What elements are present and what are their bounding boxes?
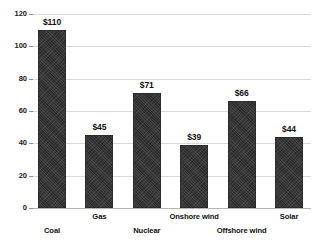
y-axis-tick-label-text: 120: [14, 9, 27, 18]
bar-chart: 020406080100120 $110$45$71$39$66$44 Coal…: [0, 0, 321, 247]
y-axis-tick-label: 60: [0, 106, 27, 116]
gridline: [33, 111, 311, 112]
gridline: [33, 176, 311, 177]
x-axis-category-label: Offshore wind: [202, 226, 282, 235]
bar: [133, 93, 161, 208]
bar: [275, 137, 303, 208]
x-axis-category-label: Nuclear: [107, 226, 187, 235]
bar-value-label: $39: [169, 132, 219, 142]
bar-value-label: $66: [217, 88, 267, 98]
y-axis-tick-label: 20: [0, 171, 27, 181]
x-axis-category-label: Solar: [249, 212, 321, 221]
x-axis-category-label: Onshore wind: [154, 212, 234, 221]
bar: [180, 145, 208, 208]
y-axis-tick-label: 100: [0, 41, 27, 51]
y-axis-tick-label: 40: [0, 138, 27, 148]
gridline: [33, 208, 311, 209]
y-axis-tick-label-text: 60: [19, 106, 27, 115]
y-axis-tick-label: 0: [0, 203, 27, 213]
y-axis-tick-label-text: 20: [19, 171, 27, 180]
y-axis-tick-label-text: 0: [23, 203, 27, 212]
x-axis-category-label: Gas: [59, 212, 139, 221]
y-axis-tick-label: 80: [0, 74, 27, 84]
bar-value-label: $44: [264, 124, 314, 134]
gridline: [33, 79, 311, 80]
y-axis-tick-label-text: 40: [19, 138, 27, 147]
bar: [38, 30, 66, 208]
y-axis-tick-label-text: 100: [14, 41, 27, 50]
y-axis-tick-label-text: 80: [19, 74, 27, 83]
gridline: [33, 14, 311, 15]
plot-area: [33, 14, 311, 208]
bar: [228, 101, 256, 208]
x-axis-category-label: Coal: [12, 226, 92, 235]
bar-value-label: $71: [122, 80, 172, 90]
gridline: [33, 46, 311, 47]
gridline: [33, 143, 311, 144]
bar: [85, 135, 113, 208]
bar-value-label: $45: [74, 122, 124, 132]
bar-value-label: $110: [27, 17, 77, 27]
y-axis-tick-label: 120: [0, 9, 27, 19]
